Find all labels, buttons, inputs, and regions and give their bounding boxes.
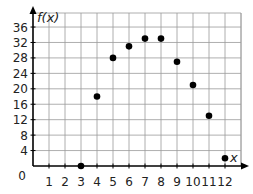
y-tick-label: 8 <box>20 129 28 143</box>
data-point <box>78 163 85 170</box>
data-point <box>190 82 197 89</box>
data-point <box>94 93 101 100</box>
y-axis-label: f(x) <box>37 10 59 25</box>
tick-labels: 1234567891011124812162024283236 <box>13 21 233 189</box>
data-point <box>174 58 181 65</box>
y-tick-label: 28 <box>13 51 28 65</box>
y-tick-label: 12 <box>13 113 28 127</box>
axes <box>30 6 250 170</box>
data-point <box>142 35 149 42</box>
y-tick-label: 24 <box>13 67 28 81</box>
x-tick-label: 2 <box>61 175 69 189</box>
y-tick-label: 20 <box>13 82 28 96</box>
x-tick-label: 9 <box>173 175 181 189</box>
x-tick-label: 11 <box>201 175 216 189</box>
data-point <box>126 43 133 50</box>
y-tick-label: 16 <box>13 98 28 112</box>
x-axis-label: x <box>229 150 238 165</box>
data-point <box>158 35 165 42</box>
x-tick-label: 3 <box>77 175 85 189</box>
origin-label: 0 <box>18 169 26 183</box>
x-tick-label: 5 <box>109 175 117 189</box>
y-tick-label: 32 <box>13 36 28 50</box>
data-point <box>222 155 229 162</box>
x-tick-label: 1 <box>45 175 53 189</box>
x-tick-label: 8 <box>157 175 165 189</box>
scatter-chart: 1234567891011124812162024283236 f(x) x 0 <box>0 0 253 194</box>
y-tick-label: 36 <box>13 21 28 35</box>
data-point <box>110 55 117 62</box>
grid <box>33 13 241 166</box>
x-tick-label: 6 <box>125 175 133 189</box>
x-tick-label: 4 <box>93 175 101 189</box>
x-tick-label: 10 <box>185 175 200 189</box>
x-tick-label: 12 <box>217 175 232 189</box>
y-tick-label: 4 <box>20 144 28 158</box>
x-tick-label: 7 <box>141 175 149 189</box>
data-points <box>78 35 229 169</box>
data-point <box>206 113 213 120</box>
